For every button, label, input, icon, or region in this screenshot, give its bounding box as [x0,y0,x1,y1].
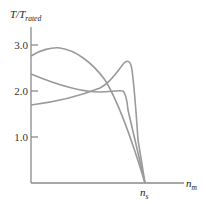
torque-speed-chart: 3.0 2.0 1.0 T/Trated nm ns [0,0,206,204]
y-tick-label-1: 1.0 [14,131,28,143]
curve-peak-breakdown [31,61,145,183]
y-tick-label-3: 3.0 [14,39,28,51]
x-axis-label: nm [186,177,198,192]
synchronous-speed-label: ns [140,186,149,201]
y-axis-label: T/Trated [10,8,41,23]
y-tick-label-2: 2.0 [14,85,28,97]
curve-high-start-torque [31,48,145,183]
curve-flat-breakdown [31,74,145,183]
